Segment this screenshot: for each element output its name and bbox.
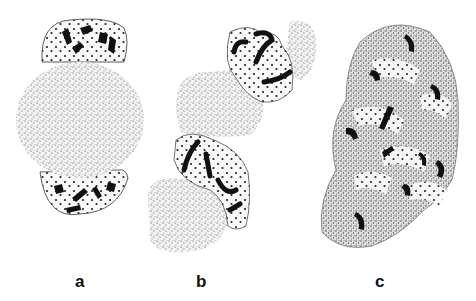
panel-label-c: c xyxy=(375,272,384,292)
panel-a-cell xyxy=(16,19,144,215)
panel-label-a: a xyxy=(75,272,84,292)
panel-b-cell xyxy=(148,21,316,253)
figure-canvas xyxy=(0,0,476,301)
panel-label-b: b xyxy=(196,272,206,292)
panel-c-cell xyxy=(321,25,458,247)
